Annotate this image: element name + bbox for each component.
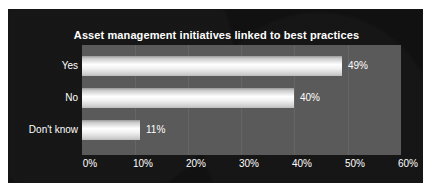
xtick-40: 40% [292, 158, 312, 169]
chart-panel: Asset management initiatives linked to b… [8, 9, 423, 183]
x-axis: 0% 10% 20% 30% 40% 50% 60% [82, 158, 401, 174]
bar-no[interactable] [82, 88, 294, 108]
xtick-20: 20% [186, 158, 206, 169]
value-label-dont-know: 11% [146, 120, 165, 140]
bar-yes[interactable] [82, 56, 342, 76]
category-label-yes: Yes [8, 56, 78, 76]
category-label-dont-know: Don't know [8, 120, 78, 140]
plot-area: 49% 40% 11% [82, 45, 401, 155]
bar-dont-know[interactable] [82, 120, 140, 140]
value-label-yes: 49% [348, 56, 368, 76]
category-axis: Yes No Don't know [8, 45, 78, 155]
xtick-10: 10% [133, 158, 153, 169]
chart-figure: Asset management initiatives linked to b… [0, 0, 431, 191]
xtick-0: 0% [83, 158, 97, 169]
value-label-no: 40% [300, 88, 320, 108]
xtick-60: 60% [398, 158, 418, 169]
category-label-no: No [8, 88, 78, 108]
xtick-50: 50% [345, 158, 365, 169]
chart-title: Asset management initiatives linked to b… [9, 29, 423, 41]
xtick-30: 30% [239, 158, 259, 169]
